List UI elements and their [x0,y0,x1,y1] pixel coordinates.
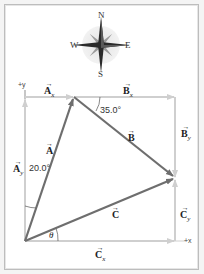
vector-arrow-icon: → [13,159,23,166]
vector-B [74,97,173,176]
compass-north-label: N [98,11,105,20]
y-axis-label: +y [18,81,26,88]
label-Cy: →Cy [180,210,190,223]
label-Ax: →Ax [44,86,54,99]
label-Bx-sub: x [130,91,133,99]
angle-A-label: 20.0° [29,164,50,173]
vector-arrow-icon: → [95,245,105,252]
label-B: →B [128,133,135,143]
vector-arrow-icon: → [128,128,135,135]
label-Cx: →Cx [95,250,105,263]
vector-arrow-icon: → [181,124,191,131]
angle-C-label: θ [49,231,53,240]
vector-C [25,179,173,241]
label-A: →A [46,146,53,156]
angle-arc-theta [56,228,58,241]
compass-south-label: S [98,70,103,79]
vector-arrow-icon: → [44,81,54,88]
vector-arrow-icon: → [180,205,190,212]
angle-B-label: 35.0° [100,106,121,115]
vector-diagram [0,0,204,274]
compass-east-label: E [125,41,131,50]
x-axis-label: +x [184,237,192,244]
label-Ax-sub: x [51,91,54,99]
label-Cx-sub: x [102,255,105,263]
label-Bx: →Bx [123,86,133,99]
compass-west-label: W [70,41,79,50]
label-Ay: →Ay [13,164,23,177]
compass-rose-icon [73,17,129,73]
label-By: →By [181,129,191,142]
vector-arrow-icon: → [123,81,133,88]
label-Cy-sub: y [187,215,190,223]
label-Ay-sub: y [20,169,23,177]
vector-arrow-icon: → [46,141,53,148]
label-By-sub: y [188,134,191,142]
vector-arrow-icon: → [112,205,119,212]
label-C: →C [112,210,119,220]
